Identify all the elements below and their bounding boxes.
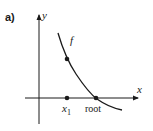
y-axis-label: y: [41, 9, 47, 21]
panel-label: a): [5, 11, 15, 23]
diagram-canvas: a) y x f x1 root: [0, 0, 153, 131]
point-x1: [65, 96, 70, 101]
point-root: [94, 96, 99, 101]
curve-label: f: [70, 34, 75, 46]
x1-label: x1: [61, 102, 71, 117]
root-label: root: [85, 103, 101, 114]
x-axis-label: x: [136, 83, 142, 95]
curve-point-f-x1: [65, 57, 70, 62]
